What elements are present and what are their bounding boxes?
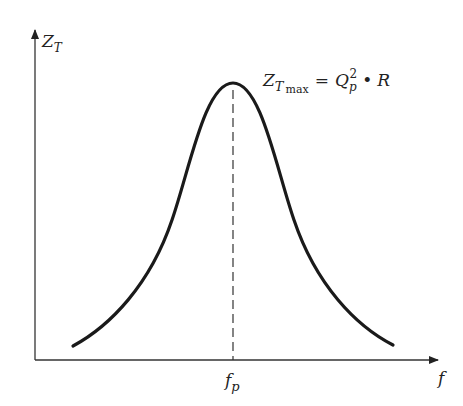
- peak-frequency-label: fp: [223, 370, 240, 394]
- x-axis-label: f: [436, 368, 447, 388]
- y-axis-label: ZT: [41, 31, 63, 55]
- resonance-diagram: ZT ZTmax=Qp2•R fp f: [0, 0, 463, 406]
- peak-formula: ZTmax=Qp2•R: [262, 67, 390, 96]
